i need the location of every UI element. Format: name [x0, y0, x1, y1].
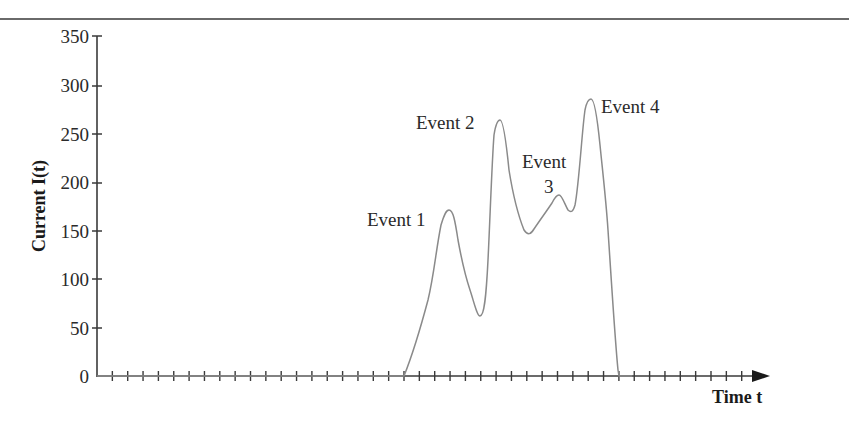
x-axis-arrow-icon: [752, 370, 770, 382]
y-tick-label-350: 350: [61, 26, 90, 47]
y-tick-label-50: 50: [70, 318, 89, 339]
y-tick-label-300: 300: [61, 75, 90, 96]
y-tick-label-150: 150: [61, 221, 90, 242]
chart-canvas: 350 300 250 200 150 100 50 0 Current I(t…: [0, 0, 849, 428]
y-tick-label-100: 100: [61, 269, 90, 290]
y-tick-label-0: 0: [80, 366, 90, 387]
y-tick-label-200: 200: [61, 172, 90, 193]
annotation-event-1: Event 1: [367, 209, 426, 230]
annotation-event-4: Event 4: [601, 96, 660, 117]
x-axis-title: Time t: [712, 387, 762, 407]
current-curve: [97, 99, 632, 376]
annotation-event-2: Event 2: [416, 112, 475, 133]
y-axis-title: Current I(t): [29, 160, 50, 252]
y-tick-label-250: 250: [61, 124, 90, 145]
annotation-event-3-line1: Event: [522, 151, 567, 172]
y-axis-tick-labels: 350 300 250 200 150 100 50 0: [61, 26, 90, 387]
annotation-event-3-line2: 3: [544, 176, 554, 197]
